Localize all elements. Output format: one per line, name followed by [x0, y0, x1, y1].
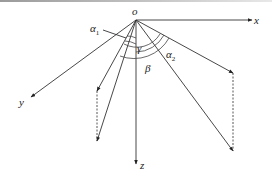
vector-right-upper: [136, 20, 233, 73]
alpha1-arc-2: [125, 41, 136, 44]
origin-label: o: [132, 5, 138, 17]
y-axis-label: y: [18, 96, 24, 108]
vector-right-lower: [136, 20, 233, 151]
x-axis-label: x: [253, 14, 259, 26]
coordinate-diagram: o x y z α1 γ α2 β: [0, 0, 272, 180]
z-axis-label: z: [139, 159, 145, 171]
alpha2-label: α2: [166, 48, 176, 63]
alpha1-leader: [103, 30, 126, 38]
alpha1-label: α1: [90, 22, 100, 37]
beta-label: β: [144, 62, 151, 74]
alpha1-arc: [127, 36, 136, 38]
gamma-label: γ: [137, 42, 142, 54]
y-axis: [31, 20, 136, 97]
